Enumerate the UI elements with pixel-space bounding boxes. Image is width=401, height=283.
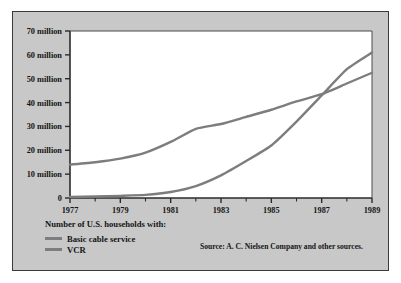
chart-figure: 010 million20 million30 million40 millio… bbox=[0, 0, 401, 283]
legend-title: Number of U.S. households with: bbox=[45, 219, 385, 229]
legend-line-swatch-cable bbox=[45, 237, 62, 240]
legend-line-swatch-vcr bbox=[45, 248, 62, 251]
source-attribution: Source: A. C. Nielsen Company and other … bbox=[200, 242, 363, 251]
legend-label-vcr: VCR bbox=[67, 245, 86, 255]
legend-label-cable: Basic cable service bbox=[67, 234, 135, 244]
cropped-caption-above-frame bbox=[14, 0, 134, 4]
